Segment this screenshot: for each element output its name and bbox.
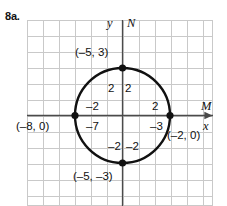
point-bottom [119, 159, 126, 166]
point-right [166, 112, 173, 119]
problem-number-label: 8a. [5, 10, 20, 22]
grid-svg [27, 20, 213, 206]
y-axis-label: y [107, 17, 113, 30]
point-label-top: (–5, 3) [75, 47, 108, 59]
tick-label-upper-left: 2 [108, 83, 114, 95]
point-left [71, 112, 78, 119]
tick-label-mid-left: –2 [86, 101, 99, 113]
x-axis-label: x [203, 120, 209, 133]
ray-label-m: M [201, 100, 211, 113]
point-label-right: (–2, 0) [167, 130, 200, 142]
tick-label-upper-right: 2 [125, 83, 131, 95]
tick-label-lower-left: –7 [86, 121, 99, 133]
coordinate-grid [27, 20, 213, 206]
ray-label-n: N [127, 17, 135, 30]
geometry-figure: 8a. [0, 0, 227, 206]
tick-label-mid-right: 2 [152, 101, 158, 113]
point-top [119, 64, 126, 71]
tick-label-bottom-left: –2 [108, 141, 121, 153]
tick-label-lower-right: –3 [150, 121, 163, 133]
point-label-left: (–8, 0) [16, 121, 49, 133]
tick-label-bottom-right: –2 [126, 141, 139, 153]
grid-background [27, 20, 213, 206]
point-label-bottom: (–5, –3) [73, 171, 113, 183]
